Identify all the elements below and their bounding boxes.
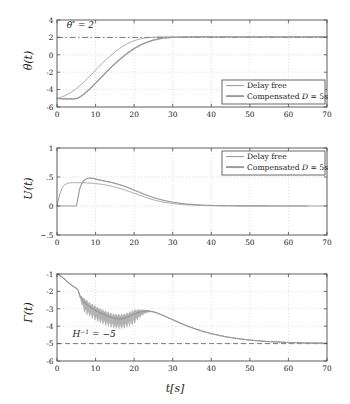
svg-text:0: 0 bbox=[49, 202, 54, 211]
annotation-Gamma: H−1 = −5 bbox=[71, 328, 116, 339]
svg-text:Delay free: Delay free bbox=[247, 152, 287, 161]
svg-text:10: 10 bbox=[91, 110, 101, 119]
svg-text:-2: -2 bbox=[46, 287, 53, 296]
legend-theta: Delay freeCompensated D = 5s bbox=[222, 80, 328, 104]
panel-theta: θ(t) 010203040506070-6-4-2024θ* = 2Delay… bbox=[0, 0, 350, 128]
svg-text:70: 70 bbox=[322, 238, 332, 247]
svg-text:-4: -4 bbox=[46, 322, 53, 331]
svg-text:2: 2 bbox=[49, 33, 54, 42]
plot-u: 010203040506070−.50.51Delay freeCompensa… bbox=[0, 128, 350, 256]
svg-text:-4: -4 bbox=[46, 85, 53, 94]
svg-text:60: 60 bbox=[284, 364, 294, 373]
svg-text:Delay free: Delay free bbox=[247, 81, 287, 90]
svg-text:-6: -6 bbox=[46, 103, 53, 112]
ylabel-u: U(t) bbox=[22, 159, 35, 219]
svg-text:40: 40 bbox=[207, 238, 217, 247]
panel-gamma: Γ(t) 010203040506070-6-5-4-3-2-1H−1 = −5… bbox=[0, 256, 350, 404]
svg-text:20: 20 bbox=[129, 238, 139, 247]
svg-text:1: 1 bbox=[49, 144, 54, 153]
svg-text:60: 60 bbox=[284, 238, 294, 247]
svg-text:-6: -6 bbox=[46, 357, 53, 366]
svg-text:20: 20 bbox=[129, 364, 139, 373]
svg-text:20: 20 bbox=[129, 110, 139, 119]
svg-text:−.5: −.5 bbox=[40, 231, 54, 240]
svg-text:0: 0 bbox=[55, 364, 60, 373]
svg-text:40: 40 bbox=[207, 364, 217, 373]
svg-text:-5: -5 bbox=[46, 339, 53, 348]
svg-text:50: 50 bbox=[245, 364, 255, 373]
svg-text:70: 70 bbox=[322, 110, 332, 119]
svg-text:4: 4 bbox=[49, 16, 54, 25]
svg-text:0: 0 bbox=[55, 238, 60, 247]
svg-text:0: 0 bbox=[49, 51, 54, 60]
svg-text:50: 50 bbox=[245, 110, 255, 119]
svg-text:30: 30 bbox=[168, 364, 178, 373]
panel-u: U(t) 010203040506070−.50.51Delay freeCom… bbox=[0, 128, 350, 256]
svg-text:Compensated D = 5s: Compensated D = 5s bbox=[247, 92, 328, 101]
annotation-theta: θ* = 2 bbox=[67, 19, 95, 30]
svg-text:40: 40 bbox=[207, 110, 217, 119]
svg-text:70: 70 bbox=[322, 364, 332, 373]
svg-text:60: 60 bbox=[284, 110, 294, 119]
svg-text:-1: -1 bbox=[46, 270, 53, 279]
xlabel-time: t[s] bbox=[0, 382, 350, 395]
svg-text:0: 0 bbox=[55, 110, 60, 119]
ylabel-theta: θ(t) bbox=[22, 31, 35, 91]
svg-text:Compensated D = 5s: Compensated D = 5s bbox=[247, 163, 328, 172]
figure-container: θ(t) 010203040506070-6-4-2024θ* = 2Delay… bbox=[0, 0, 350, 404]
svg-text:.5: .5 bbox=[46, 173, 53, 182]
plot-theta: 010203040506070-6-4-2024θ* = 2Delay free… bbox=[0, 0, 350, 128]
svg-text:50: 50 bbox=[245, 238, 255, 247]
legend-U: Delay freeCompensated D = 5s bbox=[222, 151, 328, 175]
svg-text:10: 10 bbox=[91, 364, 101, 373]
svg-text:-3: -3 bbox=[46, 305, 53, 314]
svg-text:-2: -2 bbox=[46, 68, 53, 77]
svg-text:30: 30 bbox=[168, 110, 178, 119]
svg-text:10: 10 bbox=[91, 238, 101, 247]
svg-text:30: 30 bbox=[168, 238, 178, 247]
ylabel-gamma: Γ(t) bbox=[22, 283, 35, 343]
